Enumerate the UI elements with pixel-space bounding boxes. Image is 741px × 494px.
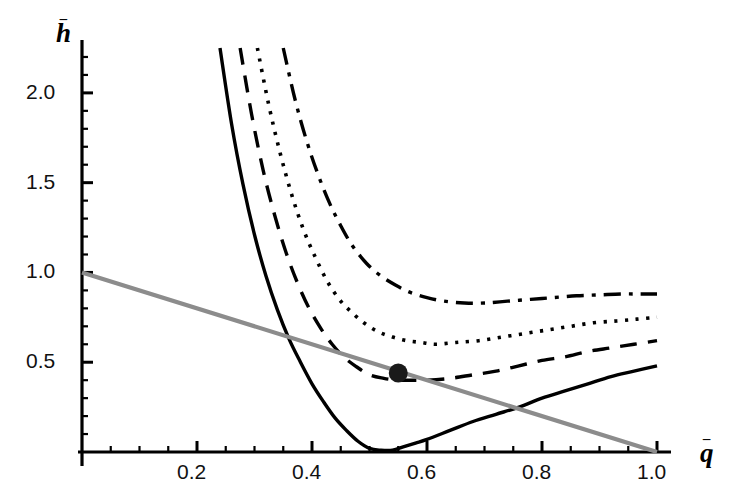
y-tick-label: 2.0 — [26, 80, 55, 104]
plot-canvas — [0, 0, 741, 494]
x-axis-label: – q — [700, 436, 714, 467]
tangency-point — [389, 363, 408, 382]
y-tick-label: 1.0 — [26, 259, 55, 283]
x-tick-label: 0.6 — [407, 460, 436, 484]
x-tick-label: 0.8 — [522, 460, 551, 484]
chart-figure: – h – q 0.20.40.60.81.00.51.01.52.0 — [0, 0, 741, 494]
y-tick-label: 0.5 — [26, 349, 55, 373]
x-axis-symbol: q — [700, 438, 714, 468]
curve-dotted — [257, 48, 657, 344]
x-tick-label: 1.0 — [637, 460, 666, 484]
budget-line — [82, 272, 657, 452]
curve-dashdot — [283, 48, 657, 303]
y-tick-label: 1.5 — [26, 170, 55, 194]
x-tick-label: 0.2 — [177, 460, 206, 484]
y-axis-label: – h — [56, 16, 71, 47]
y-axis-symbol: h — [56, 18, 71, 48]
x-tick-label: 0.4 — [292, 460, 321, 484]
curve-dashed — [240, 48, 657, 380]
